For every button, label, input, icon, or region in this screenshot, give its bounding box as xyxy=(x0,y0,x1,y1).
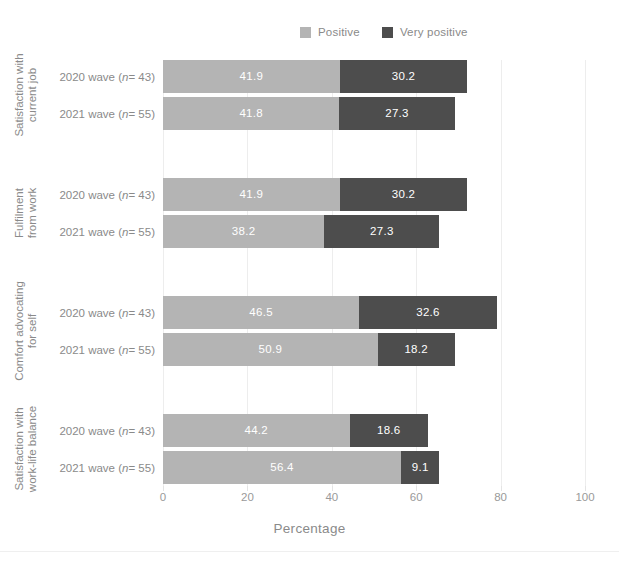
bar-segment-positive[interactable]: 46.5 xyxy=(163,296,359,329)
wave-tick-label: 2020 wave (n = 43) xyxy=(62,414,155,447)
bar-segment-very-positive[interactable]: 27.3 xyxy=(339,97,454,130)
category-label: Comfort advocatingfor self xyxy=(0,296,52,366)
wave-tick-label: 2021 wave (n = 55) xyxy=(62,451,155,484)
bar-segment-very-positive[interactable]: 9.1 xyxy=(401,451,439,484)
category-label-text: Comfort advocatingfor self xyxy=(13,281,39,381)
category-axis-labels: Satisfaction withcurrent jobFulfilmentfr… xyxy=(0,60,52,490)
bar-value-label: 50.9 xyxy=(259,344,283,356)
bar-segment-positive[interactable]: 41.9 xyxy=(163,60,340,93)
bar-row[interactable]: 56.49.1 xyxy=(163,451,585,484)
category-label-text: Fulfilmentfrom work xyxy=(13,188,39,238)
x-axis-tick-label: 80 xyxy=(494,492,507,504)
wave-tick-label: 2021 wave (n = 55) xyxy=(62,333,155,366)
bar-segment-positive[interactable]: 38.2 xyxy=(163,215,324,248)
bar-segment-very-positive[interactable]: 18.6 xyxy=(350,414,428,447)
bar-value-label: 18.2 xyxy=(404,344,428,356)
footer-divider xyxy=(0,551,619,552)
category-label: Fulfilmentfrom work xyxy=(0,178,52,248)
bar-row[interactable]: 41.827.3 xyxy=(163,97,585,130)
x-axis-tick-label: 100 xyxy=(575,492,594,504)
bar-row[interactable]: 50.918.2 xyxy=(163,333,585,366)
x-axis-tick-label: 40 xyxy=(325,492,338,504)
bar-value-label: 44.2 xyxy=(244,425,268,437)
bar-value-label: 56.4 xyxy=(270,462,294,474)
x-axis-tick-label: 20 xyxy=(241,492,254,504)
bar-value-label: 9.1 xyxy=(412,462,429,474)
bar-value-label: 18.6 xyxy=(377,425,401,437)
category-label: Satisfaction withwork-life balance xyxy=(0,414,52,484)
bar-segment-very-positive[interactable]: 27.3 xyxy=(324,215,439,248)
bar-row[interactable]: 46.532.6 xyxy=(163,296,585,329)
wave-tick-label: 2021 wave (n = 55) xyxy=(62,215,155,248)
bar-value-label: 46.5 xyxy=(249,307,273,319)
bar-segment-positive[interactable]: 41.9 xyxy=(163,178,340,211)
bar-row[interactable]: 38.227.3 xyxy=(163,215,585,248)
bar-value-label: 41.8 xyxy=(239,108,263,120)
bar-value-label: 32.6 xyxy=(416,307,440,319)
bar-row[interactable]: 41.930.2 xyxy=(163,60,585,93)
chart-legend: Positive Very positive xyxy=(300,27,468,39)
bar-segment-very-positive[interactable]: 32.6 xyxy=(359,296,497,329)
bar-row[interactable]: 44.218.6 xyxy=(163,414,585,447)
bar-segment-positive[interactable]: 44.2 xyxy=(163,414,350,447)
bar-value-label: 27.3 xyxy=(385,108,409,120)
wave-tick-label: 2020 wave (n = 43) xyxy=(62,296,155,329)
x-axis-tick-label: 60 xyxy=(410,492,423,504)
bar-value-label: 27.3 xyxy=(370,226,394,238)
x-axis-tick-label: 0 xyxy=(160,492,166,504)
bar-value-label: 38.2 xyxy=(232,226,256,238)
legend-label-very-positive: Very positive xyxy=(400,27,468,39)
bar-segment-positive[interactable]: 56.4 xyxy=(163,451,401,484)
legend-item-very-positive[interactable]: Very positive xyxy=(382,27,468,39)
wave-tick-label: 2021 wave (n = 55) xyxy=(62,97,155,130)
category-label-text: Satisfaction withcurrent job xyxy=(13,53,39,136)
bar-value-label: 41.9 xyxy=(240,189,264,201)
x-axis-title: Percentage xyxy=(0,521,619,536)
chart-root: Positive Very positive Satisfaction with… xyxy=(0,0,619,561)
bar-segment-very-positive[interactable]: 18.2 xyxy=(378,333,455,366)
bar-value-label: 30.2 xyxy=(392,189,416,201)
category-label-text: Satisfaction withwork-life balance xyxy=(13,406,39,492)
legend-item-positive[interactable]: Positive xyxy=(300,27,360,39)
wave-tick-label: 2020 wave (n = 43) xyxy=(62,60,155,93)
legend-swatch-very-positive xyxy=(382,27,393,38)
bar-segment-very-positive[interactable]: 30.2 xyxy=(340,60,467,93)
x-axis: 020406080100 xyxy=(163,492,585,512)
category-label: Satisfaction withcurrent job xyxy=(0,60,52,130)
bar-value-label: 30.2 xyxy=(392,71,416,83)
legend-swatch-positive xyxy=(300,27,311,38)
wave-tick-label: 2020 wave (n = 43) xyxy=(62,178,155,211)
bar-value-label: 41.9 xyxy=(240,71,264,83)
bar-segment-positive[interactable]: 41.8 xyxy=(163,97,339,130)
bar-segment-positive[interactable]: 50.9 xyxy=(163,333,378,366)
plot-area: 41.930.241.827.341.930.238.227.346.532.6… xyxy=(163,60,585,490)
gridline xyxy=(585,60,586,490)
bar-segment-very-positive[interactable]: 30.2 xyxy=(340,178,467,211)
bar-row[interactable]: 41.930.2 xyxy=(163,178,585,211)
series-tick-labels: 2020 wave (n = 43)2021 wave (n = 55)2020… xyxy=(62,60,155,490)
legend-label-positive: Positive xyxy=(318,27,360,39)
